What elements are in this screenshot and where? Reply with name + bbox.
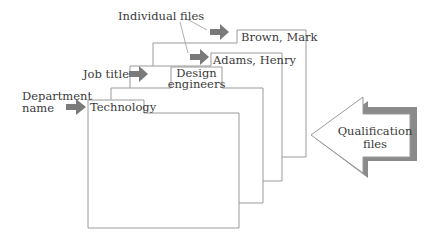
label-job-title: Job title [82,67,129,81]
folder-tab-brown-mark: Brown, Mark [241,30,319,44]
qualification-files-arrow: Qualification files [311,97,417,178]
label-department-name: name [22,101,54,115]
qualification-label: Qualification [338,124,413,138]
folder-tab-adams-henry: Adams, Henry [212,53,296,67]
files-label: files [363,137,387,151]
arrow-icon-brown [210,24,229,40]
folder-technology: Technology [88,100,239,228]
diagram-canvas: Brown, Mark Adams, Henry Design engineer… [0,0,443,241]
folder-tab-engineers: engineers [168,77,226,91]
label-individual-files: Individual files [118,9,204,23]
folder-tab-technology: Technology [90,100,157,114]
